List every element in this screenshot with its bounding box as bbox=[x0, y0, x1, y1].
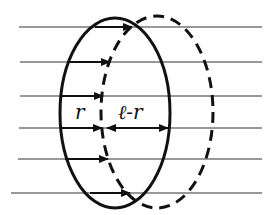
label-r: r bbox=[75, 100, 86, 124]
label-l-minus-r: ℓ-r bbox=[118, 100, 144, 124]
loop-field-diagram: r ℓ-r bbox=[0, 0, 277, 215]
diagram-canvas: r ℓ-r bbox=[0, 0, 277, 215]
